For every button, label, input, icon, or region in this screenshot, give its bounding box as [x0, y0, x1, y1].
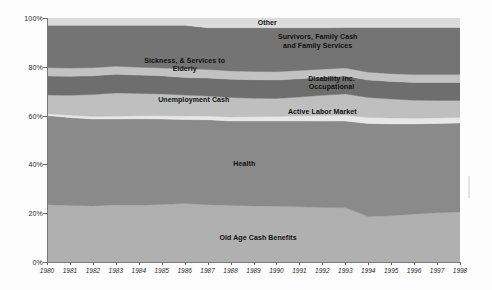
x-tick-mark: [185, 262, 186, 265]
x-tick-mark: [139, 262, 140, 265]
x-tick-label: 1991: [292, 267, 306, 274]
x-tick-label: 1985: [154, 267, 168, 274]
series-label-sickness: Sickness, & Services to Elderly: [144, 56, 225, 73]
stacked-area-svg: [47, 18, 460, 262]
y-tick-mark: [43, 262, 47, 263]
series-label-disability: Disability inc. Occupational: [308, 74, 355, 91]
x-tick-label: 1987: [200, 267, 214, 274]
x-tick-label: 1994: [361, 267, 375, 274]
x-axis: 1980198119821983198419851986198719881989…: [47, 262, 460, 288]
series-label-unemployment: Unemployment Cash: [158, 95, 229, 104]
x-tick-label: 1993: [338, 267, 352, 274]
y-tick-label: 40%: [28, 161, 43, 168]
x-tick-label: 1984: [132, 267, 146, 274]
y-tick-label: 80%: [28, 63, 43, 70]
chart-root: 0%20%40%60%80%100% Old Age Cash Benefits…: [0, 0, 492, 290]
x-tick-label: 1983: [109, 267, 123, 274]
x-tick-mark: [93, 262, 94, 265]
x-tick-label: 1996: [407, 267, 421, 274]
series-label-active_labor: Active Labor Market: [288, 108, 357, 117]
y-axis: 0%20%40%60%80%100%: [0, 18, 43, 262]
x-tick-mark: [254, 262, 255, 265]
x-tick-mark: [345, 262, 346, 265]
series-label-health: Health: [233, 160, 255, 169]
x-tick-mark: [391, 262, 392, 265]
x-tick-label: 1980: [40, 267, 54, 274]
x-tick-label: 1986: [177, 267, 191, 274]
y-tick-label: 0%: [32, 259, 43, 266]
y-tick-mark: [43, 67, 47, 68]
x-tick-mark: [437, 262, 438, 265]
x-tick-label: 1995: [384, 267, 398, 274]
x-tick-label: 1998: [453, 267, 467, 274]
plot-area: Old Age Cash BenefitsHealthActive Labor …: [47, 18, 460, 262]
x-tick-label: 1992: [315, 267, 329, 274]
x-tick-label: 1982: [86, 267, 100, 274]
x-tick-label: 1981: [63, 267, 77, 274]
x-tick-mark: [460, 262, 461, 265]
series-label-other: Other: [258, 19, 277, 28]
series-label-old_age: Old Age Cash Benefits: [219, 233, 296, 242]
x-tick-label: 1988: [223, 267, 237, 274]
x-tick-mark: [231, 262, 232, 265]
x-tick-mark: [299, 262, 300, 265]
x-tick-mark: [368, 262, 369, 265]
x-tick-mark: [414, 262, 415, 265]
x-tick-mark: [162, 262, 163, 265]
x-tick-label: 1989: [246, 267, 260, 274]
x-tick-mark: [47, 262, 48, 265]
y-tick-label: 20%: [28, 210, 43, 217]
scan-artifact: [468, 176, 470, 198]
x-tick-mark: [116, 262, 117, 265]
x-tick-mark: [70, 262, 71, 265]
y-tick-mark: [43, 164, 47, 165]
y-tick-label: 60%: [28, 112, 43, 119]
y-tick-label: 100%: [24, 15, 43, 22]
x-tick-mark: [322, 262, 323, 265]
x-tick-mark: [208, 262, 209, 265]
x-tick-label: 1990: [269, 267, 283, 274]
x-tick-label: 1997: [430, 267, 444, 274]
y-tick-mark: [43, 213, 47, 214]
y-tick-mark: [43, 116, 47, 117]
y-tick-mark: [43, 18, 47, 19]
x-tick-mark: [276, 262, 277, 265]
series-label-survivors: Survivors, Family Cash and Family Servic…: [278, 33, 358, 50]
